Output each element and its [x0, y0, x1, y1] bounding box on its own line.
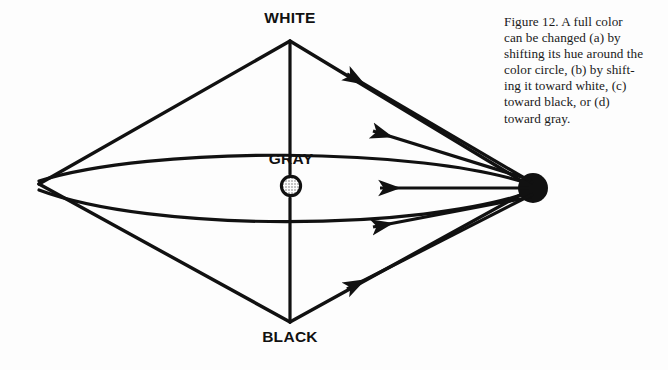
caption-line: toward gray.	[504, 111, 660, 127]
label-white: WHITE	[264, 9, 315, 27]
caption-line: can be changed (a) by	[504, 30, 660, 46]
gray-point-circle	[281, 176, 300, 195]
label-gray: GRAY	[269, 150, 314, 168]
cone-edge-upper-left	[39, 41, 290, 184]
caption-line: shifting its hue around the	[504, 46, 660, 62]
cone-edge-lower-left	[39, 184, 290, 322]
caption-line: toward black, or (d)	[504, 94, 660, 110]
figure-caption: Figure 12. A full color can be changed (…	[504, 14, 660, 127]
arrow-hue-shift-lower	[347, 194, 533, 289]
cone-edge-upper-right	[290, 41, 533, 188]
label-black: BLACK	[262, 328, 318, 346]
caption-line: color circle, (b) by shift-	[504, 62, 660, 78]
figure-12-color-solid: WHITE GRAY BLACK Figure 12. A full color…	[0, 0, 668, 370]
arrow-toward-black	[373, 197, 531, 227]
caption-line: ing it toward white, (c)	[504, 78, 660, 94]
caption-line: Figure 12. A full color	[504, 14, 660, 30]
